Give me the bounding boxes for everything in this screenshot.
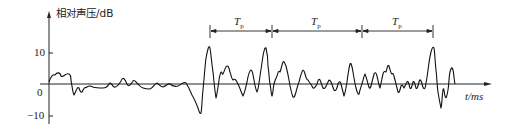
y-tick-label-neg10-value: 10 [33,109,44,121]
y-tick-label-10: 10 [34,47,45,58]
waveform-line [49,46,455,113]
y-tick-label-neg10: −10 [27,110,44,121]
tp-label-3: Tp [392,16,402,30]
tp-label-1: Tp [234,16,244,30]
y-tick-label-0: 0 [37,87,43,98]
y-axis-arrow-icon [47,11,51,18]
y-axis-label: 相对声压/dB [56,8,113,19]
tp-label-2: Tp [311,16,321,30]
x-axis-label: t/ms [465,91,483,102]
x-axis-arrow-icon [484,82,492,86]
x-axis-label-text: t/ms [465,90,483,102]
sound-pressure-chart [0,0,512,136]
